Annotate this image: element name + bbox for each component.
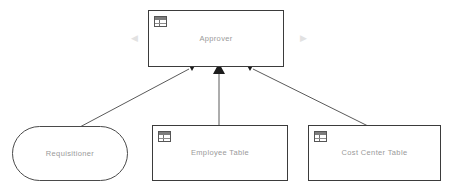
connector-line [253, 69, 368, 126]
node-label: Requisitioner [46, 150, 94, 158]
chevron-right-icon[interactable]: ▶ [300, 34, 307, 43]
node-cost-center-table[interactable]: Cost Center Table [308, 125, 441, 181]
node-employee-table[interactable]: Employee Table [152, 125, 288, 181]
node-label: Approver [199, 35, 232, 43]
connector-employee-table-to-approver [213, 63, 225, 125]
connector-cost-center-table-to-approver [244, 60, 368, 126]
table-icon [314, 131, 327, 142]
connector-line [78, 69, 189, 128]
node-approver[interactable]: Approver [148, 10, 284, 67]
chevron-left-icon[interactable]: ◀ [131, 34, 138, 43]
table-icon [154, 16, 167, 27]
connector-requisitioner-to-approver [78, 60, 198, 128]
node-label: Employee Table [191, 149, 249, 157]
node-requisitioner[interactable]: Requisitioner [12, 126, 128, 181]
table-icon [158, 131, 171, 142]
diagram-canvas: Approver Requisitioner Employee Table Co… [0, 0, 449, 190]
node-label: Cost Center Table [342, 149, 408, 157]
